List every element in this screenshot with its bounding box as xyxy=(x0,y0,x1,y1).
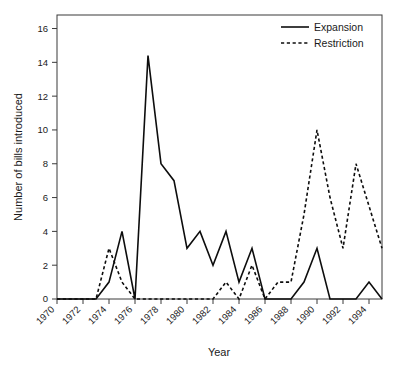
line-chart: 0246810121416 19701972197419761978198019… xyxy=(0,0,403,366)
legend-label-restriction: Restriction xyxy=(314,37,364,49)
y-tick-label: 4 xyxy=(43,226,48,237)
y-tick-label: 14 xyxy=(37,57,48,68)
y-tick-label: 6 xyxy=(43,192,48,203)
y-tick-label: 8 xyxy=(43,158,48,169)
y-tick-label: 0 xyxy=(43,293,48,304)
y-tick-label: 10 xyxy=(37,124,48,135)
y-tick-label: 2 xyxy=(43,260,48,271)
y-axis-title: Number of bills introduced xyxy=(12,93,24,221)
chart-figure: 0246810121416 19701972197419761978198019… xyxy=(0,0,403,366)
legend-label-expansion: Expansion xyxy=(314,21,363,33)
x-axis-title: Year xyxy=(208,346,231,358)
y-tick-label: 12 xyxy=(37,91,48,102)
y-tick-label: 16 xyxy=(37,23,48,34)
